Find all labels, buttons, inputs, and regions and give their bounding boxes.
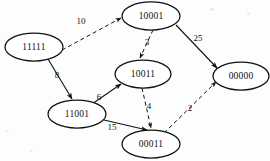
edge-weight-11111-11001: 8	[55, 70, 60, 80]
edge-11111-to-11001: 8	[48, 59, 72, 99]
node-label-00011: 00011	[139, 139, 163, 149]
scan-speck	[6, 130, 9, 132]
edge-weight-10001-00000: 25	[194, 33, 204, 43]
graph-diagram: 10 3 25 8 6	[0, 0, 270, 161]
edge-line-11111-10001	[62, 18, 121, 50]
edge-weight-11001-10011: 6	[97, 92, 102, 102]
node-00011[interactable]: 00011	[122, 130, 180, 158]
scan-speck	[247, 12, 250, 15]
edge-line-10001-00000	[176, 25, 217, 68]
graph-canvas: 10 3 25 8 6	[0, 0, 270, 161]
node-label-10011: 10011	[131, 69, 155, 79]
edge-weight-11111-10001: 10	[77, 16, 87, 26]
node-11111[interactable]: 11111	[5, 33, 63, 61]
scan-speck	[30, 150, 33, 152]
node-group: 11111 10001 10011 00000 11001 00011	[5, 2, 269, 158]
edge-11001-to-10011: 6	[92, 84, 121, 104]
edge-line-11111-11001	[48, 59, 72, 99]
edge-weight-10011-00011: 4	[147, 101, 152, 111]
node-00000[interactable]: 00000	[213, 62, 269, 90]
edge-11111-to-10001: 10	[62, 16, 121, 50]
edge-weight-11001-00011: 15	[108, 122, 118, 132]
edge-weight-00011-00000: 2	[188, 103, 193, 113]
node-label-00000: 00000	[229, 71, 254, 81]
edge-10001-to-10011: 3	[140, 30, 153, 58]
edge-11001-to-00011: 15	[104, 120, 147, 132]
edge-00011-to-00000: 2	[164, 82, 216, 133]
node-10001[interactable]: 10001	[122, 2, 180, 30]
node-label-10001: 10001	[139, 11, 164, 21]
node-11001[interactable]: 11001	[48, 100, 106, 128]
edge-weight-10001-10011: 3	[145, 37, 150, 47]
node-label-11001: 11001	[65, 109, 89, 119]
scan-speck	[210, 8, 214, 11]
edge-10011-to-00011: 4	[142, 88, 152, 128]
edge-10001-to-00000: 25	[176, 25, 217, 68]
node-10011[interactable]: 10011	[115, 60, 171, 88]
node-label-11111: 11111	[22, 42, 45, 52]
